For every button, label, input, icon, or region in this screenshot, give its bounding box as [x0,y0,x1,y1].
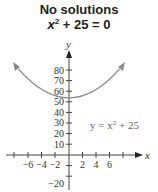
y-tick-label: 70 [54,75,64,86]
x-tick-label: 6 [107,159,112,170]
y-tick-label: 80 [54,65,64,76]
y-tick-label: 60 [54,86,64,97]
y-tick-label: −20 [48,178,64,189]
y-tick-label: 20 [54,128,64,139]
plot-area: 80 70 60 50 40 30 20 10 −20 −6 −4 −2 2 4… [0,0,158,192]
x-tick-label: −2 [50,159,61,170]
x-tick-label: 2 [80,159,85,170]
y-tick-label: 10 [54,139,64,150]
x-tick-label: 4 [94,159,99,170]
curve-label-lhs: y = x [90,119,113,131]
y-tick-label: 40 [54,107,64,118]
y-tick-label: 30 [54,117,64,128]
x-tick-label: −6 [23,159,34,170]
x-tick-label: −4 [36,159,47,170]
y-axis-label: y [65,38,71,50]
x-axis-label: x [144,149,150,161]
y-axis-arrow-icon [66,50,72,58]
x-axis-arrow-icon [135,152,143,158]
curve-label: y = x2 + 25 [90,119,139,131]
curve-label-rhs: + 25 [116,119,139,131]
